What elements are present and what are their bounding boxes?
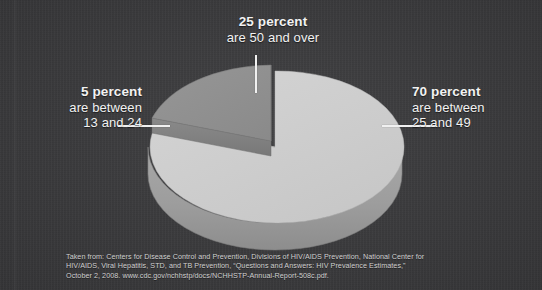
citation-line-3: October 2, 2008. www.cdc.gov/nchhstp/doc… bbox=[66, 271, 496, 280]
citation-line-1: Taken from: Centers for Disease Control … bbox=[66, 252, 496, 261]
callout-label-left: 5 percent are between 13 and 24 bbox=[12, 84, 142, 131]
source-citation: Taken from: Centers for Disease Control … bbox=[66, 252, 496, 280]
callout-left-line1: are between bbox=[12, 100, 142, 116]
leader-line-top bbox=[255, 55, 257, 93]
callout-right-line2: 25 and 49 bbox=[412, 115, 538, 131]
pie-chart: 25 percent are 50 and over 5 percent are… bbox=[0, 0, 542, 290]
callout-top-percent: 25 percent bbox=[193, 14, 353, 30]
callout-top-line1: are 50 and over bbox=[193, 30, 353, 46]
callout-right-percent: 70 percent bbox=[412, 84, 538, 100]
callout-label-top: 25 percent are 50 and over bbox=[193, 14, 353, 45]
callout-left-line2: 13 and 24 bbox=[12, 115, 142, 131]
callout-left-percent: 5 percent bbox=[12, 84, 142, 100]
callout-label-right: 70 percent are between 25 and 49 bbox=[412, 84, 538, 131]
citation-line-2: HIV/AIDS, Viral Hepatitis, STD, and TB P… bbox=[66, 261, 496, 270]
pie-chart-graphic bbox=[130, 52, 420, 242]
slide-canvas: 25 percent are 50 and over 5 percent are… bbox=[0, 0, 542, 290]
callout-right-line1: are between bbox=[412, 100, 538, 116]
